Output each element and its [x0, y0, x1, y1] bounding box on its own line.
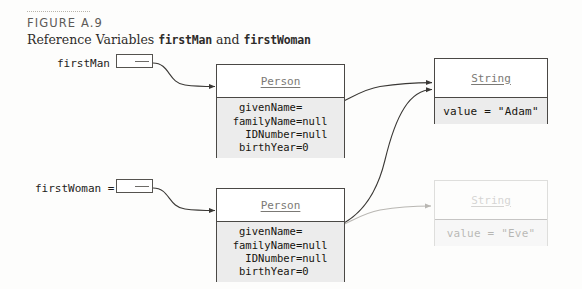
object-header-person-1: Person	[217, 65, 344, 97]
object-box-string-eve[interactable]: String value = "Eve"	[434, 180, 548, 246]
field-value: null	[302, 115, 328, 128]
field-name: birthYear	[233, 141, 296, 154]
field-equals: =	[296, 225, 302, 238]
object-box-person-1[interactable]: Person givenName = familyName = null	[216, 64, 345, 158]
field-value-line: value = "Eve"	[447, 227, 536, 240]
object-box-string-adam[interactable]: String value = "Adam"	[434, 58, 548, 124]
field-row: givenName =	[233, 101, 329, 114]
field-row: IDNumber = null	[233, 252, 329, 265]
figure-caption: Reference Variables firstMan and firstWo…	[27, 32, 311, 47]
figure-number: FIGURE A.9	[27, 16, 103, 30]
object-header-string-adam: String	[435, 59, 547, 97]
variable-label-firstwoman: firstWoman =	[35, 182, 114, 195]
variable-cell-firstman[interactable]	[116, 54, 153, 68]
object-type-label: Person	[261, 199, 301, 212]
variable-label-firstman: firstMan =	[57, 57, 123, 70]
field-value	[302, 225, 328, 238]
caption-conjunction: and	[212, 32, 243, 47]
object-header-person-2: Person	[217, 189, 344, 221]
caption-rule	[27, 11, 90, 14]
reference-slot-icon	[135, 61, 149, 62]
field-value: null	[302, 128, 328, 141]
object-type-label: String	[471, 72, 511, 85]
field-value-line: value = "Adam"	[443, 105, 539, 118]
field-equals: =	[296, 101, 302, 114]
caption-prefix: Reference Variables	[27, 32, 158, 47]
field-name: IDNumber	[233, 252, 296, 265]
field-value	[302, 101, 328, 114]
arrow-firstman-to-person1	[153, 63, 215, 87]
object-box-person-2[interactable]: Person givenName = familyName = null	[216, 188, 345, 282]
field-name: givenName	[233, 225, 296, 238]
object-body-person-2: givenName = familyName = null IDNumber =…	[217, 221, 344, 282]
field-row: birthYear = 0	[233, 141, 329, 154]
figure-container: FIGURE A.9 Reference Variables firstMan …	[0, 0, 582, 289]
arrow-firstwoman-to-person2	[153, 188, 215, 211]
field-value: 0	[302, 141, 328, 154]
field-name: givenName	[233, 101, 296, 114]
field-row: IDNumber = null	[233, 128, 329, 141]
object-type-label: Person	[261, 75, 301, 88]
field-table: givenName = familyName = null IDNumber =…	[233, 225, 329, 279]
variable-cell-firstwoman[interactable]	[116, 179, 153, 193]
reference-slot-icon	[135, 186, 149, 187]
field-name: familyName	[233, 239, 296, 252]
field-row: familyName = null	[233, 115, 329, 128]
object-header-string-eve: String	[435, 181, 547, 219]
field-value: null	[302, 239, 328, 252]
caption-variable-firstman: firstMan	[158, 33, 212, 47]
object-body-string-adam: value = "Adam"	[435, 97, 547, 124]
caption-variable-firstwoman: firstWoman	[243, 33, 310, 47]
field-name: birthYear	[233, 265, 296, 278]
field-row: givenName =	[233, 225, 329, 238]
field-name: IDNumber	[233, 128, 296, 141]
field-table: givenName = familyName = null IDNumber =…	[233, 101, 329, 155]
object-type-label: String	[471, 194, 511, 207]
field-name: familyName	[233, 115, 296, 128]
field-row: birthYear = 0	[233, 265, 329, 278]
field-row: familyName = null	[233, 239, 329, 252]
field-value: 0	[302, 265, 328, 278]
field-value: null	[302, 252, 328, 265]
object-body-string-eve: value = "Eve"	[435, 219, 547, 246]
object-body-person-1: givenName = familyName = null IDNumber =…	[217, 97, 344, 158]
